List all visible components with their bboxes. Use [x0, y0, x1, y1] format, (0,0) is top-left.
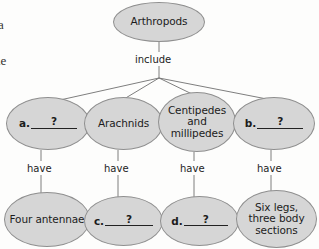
- answer-blank-c-marker: c.: [94, 216, 104, 227]
- answer-blank-c-rule[interactable]: ?: [105, 214, 153, 226]
- answer-blank-b-rule[interactable]: ?: [257, 117, 303, 129]
- node-answer-blank-c[interactable]: c. ?: [84, 196, 163, 246]
- answer-blank-c[interactable]: c. ?: [94, 214, 153, 226]
- edge-label-have-1: have: [27, 163, 52, 174]
- node-arthropods-label: Arthropods: [126, 16, 191, 27]
- answer-blank-b[interactable]: b. ?: [245, 117, 303, 129]
- node-centipedes-millipedes-label: Centipedes and millipedes: [159, 105, 235, 138]
- answer-blank-d-question-mark: ?: [203, 214, 209, 225]
- answer-blank-a-rule[interactable]: ?: [31, 117, 77, 129]
- node-answer-blank-a[interactable]: a. ?: [6, 97, 90, 150]
- answer-blank-d-marker: d.: [171, 216, 182, 227]
- answer-blank-a[interactable]: a. ?: [19, 117, 77, 129]
- node-centipedes-millipedes: Centipedes and millipedes: [158, 92, 236, 152]
- node-answer-blank-b[interactable]: b. ?: [233, 97, 315, 150]
- node-six-legs-three-body-sections-label: Six legs, three body sections: [237, 202, 316, 235]
- answer-blank-a-marker: a.: [19, 118, 30, 129]
- node-six-legs-three-body-sections: Six legs, three body sections: [236, 190, 317, 248]
- node-four-antennae-label: Four antennae: [6, 214, 89, 225]
- node-arthropods: Arthropods: [113, 2, 205, 42]
- edge-label-have-4: have: [257, 163, 282, 174]
- edge-label-have-3: have: [180, 163, 205, 174]
- node-arachnids: Arachnids: [84, 97, 163, 150]
- answer-blank-c-question-mark: ?: [126, 214, 132, 225]
- concept-map-diagram: a ne Arthropods include: [0, 0, 319, 249]
- answer-blank-b-question-mark: ?: [277, 116, 283, 127]
- answer-blank-d[interactable]: d. ?: [171, 214, 227, 226]
- answer-blank-a-question-mark: ?: [51, 116, 57, 127]
- edge-label-have-2: have: [104, 163, 129, 174]
- node-answer-blank-d[interactable]: d. ?: [160, 196, 239, 246]
- answer-blank-b-marker: b.: [245, 118, 256, 129]
- node-arachnids-label: Arachnids: [94, 118, 153, 129]
- answer-blank-d-rule[interactable]: ?: [184, 214, 228, 226]
- edge-label-include: include: [135, 54, 171, 65]
- node-four-antennae: Four antennae: [4, 192, 90, 247]
